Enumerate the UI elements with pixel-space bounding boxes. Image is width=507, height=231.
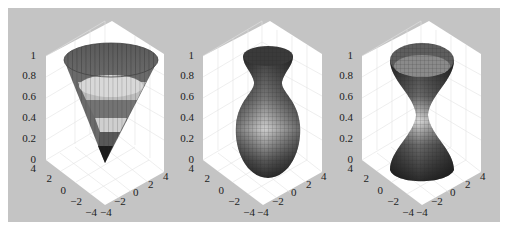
y-tick: 2 [205, 172, 211, 184]
y-tick: 0 [61, 184, 67, 196]
x-tick: 2 [148, 178, 154, 190]
y-tick: 4 [31, 162, 37, 174]
z-tick: 0.2 [22, 132, 36, 144]
z-tick: 0.4 [339, 111, 353, 123]
x-tick: 2 [465, 178, 471, 190]
x-tick: −4 [416, 206, 428, 218]
y-tick: −4 [402, 206, 414, 218]
x-tick: 0 [133, 186, 139, 198]
z-tick: 1 [31, 49, 37, 61]
x-tick: −4 [100, 206, 112, 218]
x-tick: 4 [163, 170, 169, 182]
z-tick: 0.2 [180, 132, 194, 144]
z-tick: 0.6 [22, 90, 36, 102]
z-axis-ticks: 1 0.8 0.6 0.4 0.2 0 [339, 49, 353, 165]
x-tick: 0 [291, 186, 297, 198]
y-tick: −2 [387, 195, 399, 207]
y-tick: 4 [348, 162, 354, 174]
x-tick: 4 [321, 170, 327, 182]
x-tick: −2 [114, 195, 126, 207]
z-tick: 0.4 [180, 111, 194, 123]
y-tick: 4 [189, 162, 195, 174]
panel-cone: 1 0.8 0.6 0.4 0.2 0 4 2 0 −2 −4 −4 −2 0 … [22, 21, 169, 218]
z-axis-ticks: 1 0.8 0.6 0.4 0.2 0 [22, 49, 36, 165]
z-tick: 0.8 [339, 69, 353, 81]
x-tick: 2 [306, 178, 312, 190]
z-tick: 1 [348, 49, 354, 61]
z-axis-ticks: 1 0.8 0.6 0.4 0.2 0 [180, 49, 194, 165]
z-tick: 0.8 [22, 69, 36, 81]
panel-hourglass: 1 0.8 0.6 0.4 0.2 0 4 2 0 −2 −4 −4 −2 0 … [339, 21, 486, 218]
y-tick: −4 [243, 206, 255, 218]
z-tick: 0.8 [180, 69, 194, 81]
z-tick: 0.6 [339, 90, 353, 102]
x-tick: −4 [257, 206, 269, 218]
y-tick: 0 [219, 184, 225, 196]
z-tick: 1 [189, 49, 195, 61]
y-tick: −4 [85, 206, 97, 218]
x-tick: 4 [480, 170, 486, 182]
plots-canvas: 1 0.8 0.6 0.4 0.2 0 4 2 0 −2 −4 −4 −2 0 … [0, 0, 507, 231]
z-tick: 0.6 [180, 90, 194, 102]
z-tick: 0.2 [339, 132, 353, 144]
x-tick: −2 [431, 195, 443, 207]
y-tick: 0 [378, 184, 384, 196]
y-tick: 2 [364, 172, 370, 184]
x-tick: 0 [450, 186, 456, 198]
y-tick: 2 [47, 172, 53, 184]
y-tick: −2 [228, 195, 240, 207]
panel-vase: 1 0.8 0.6 0.4 0.2 0 4 2 0 −2 −4 −4 −2 0 … [180, 21, 327, 218]
y-tick: −2 [70, 195, 82, 207]
x-tick: −2 [272, 195, 284, 207]
z-tick: 0.4 [22, 111, 36, 123]
